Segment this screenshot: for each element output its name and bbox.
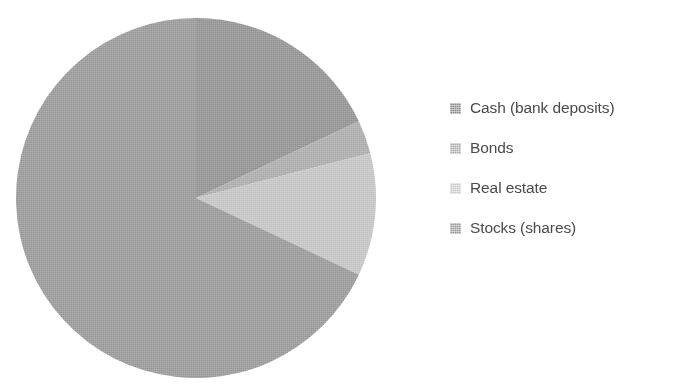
legend-swatch-stocks-icon (450, 223, 461, 234)
pie-chart-svg (0, 0, 420, 388)
pie-chart-plot-area (0, 0, 420, 388)
legend-label-cash: Cash (bank deposits) (470, 100, 614, 116)
legend-swatch-real-estate-icon (450, 183, 461, 194)
pie-chart-screenshot: Cash (bank deposits) Bonds Real estate S… (0, 0, 673, 388)
chart-legend: Cash (bank deposits) Bonds Real estate S… (450, 88, 673, 248)
legend-item-stocks[interactable]: Stocks (shares) (450, 208, 673, 248)
legend-item-real-estate[interactable]: Real estate (450, 168, 673, 208)
pie-slices-group (16, 18, 376, 378)
legend-item-cash[interactable]: Cash (bank deposits) (450, 88, 673, 128)
legend-swatch-bonds-icon (450, 143, 461, 154)
legend-label-bonds: Bonds (470, 140, 513, 156)
legend-label-stocks: Stocks (shares) (470, 220, 576, 236)
legend-item-bonds[interactable]: Bonds (450, 128, 673, 168)
legend-label-real-estate: Real estate (470, 180, 547, 196)
legend-swatch-cash-icon (450, 103, 461, 114)
